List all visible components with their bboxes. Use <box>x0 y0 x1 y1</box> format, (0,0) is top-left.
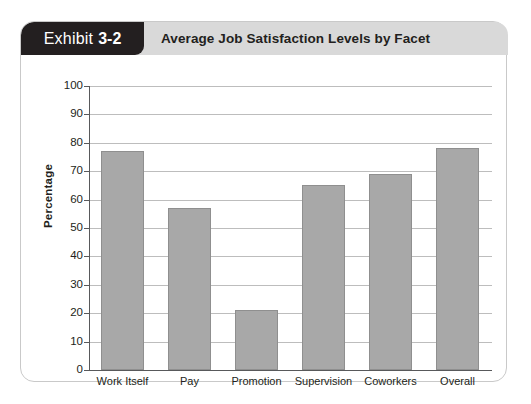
y-axis-tick-label: 30 <box>49 279 83 291</box>
x-axis-tick-label: Work Itself <box>89 376 156 387</box>
gridline <box>90 171 492 172</box>
x-axis-tick-label: Promotion <box>223 376 290 387</box>
y-axis-tick-label: 20 <box>49 307 83 319</box>
exhibit-header-band: Exhibit 3-2 Average Job Satisfaction Lev… <box>21 22 508 55</box>
y-axis-tick <box>84 256 89 257</box>
gridline <box>90 313 492 314</box>
y-axis-tick-label: 90 <box>49 108 83 120</box>
y-axis-tick <box>84 86 89 87</box>
x-axis-tick-label: Coworkers <box>357 376 424 387</box>
gridline <box>90 285 492 286</box>
y-axis-tick <box>84 200 89 201</box>
bar-promotion <box>235 310 278 370</box>
y-axis-tick <box>84 171 89 172</box>
y-axis-tick-label: 40 <box>49 250 83 262</box>
exhibit-tag: Exhibit 3-2 <box>21 22 144 55</box>
x-axis-tick-label: Overall <box>424 376 491 387</box>
gridline <box>90 342 492 343</box>
gridline <box>90 86 492 87</box>
exhibit-tag-word: Exhibit <box>44 30 93 48</box>
plot-area: Work ItselfPayPromotionSupervisionCowork… <box>89 86 491 370</box>
y-axis-tick <box>84 370 89 371</box>
gridline <box>90 200 492 201</box>
y-axis-tick <box>84 285 89 286</box>
bar-overall <box>436 148 479 370</box>
bar-coworkers <box>369 174 412 370</box>
x-axis-tick-label: Supervision <box>290 376 357 387</box>
y-axis-tick <box>84 342 89 343</box>
y-axis-tick-label: 80 <box>49 137 83 149</box>
y-axis-tick <box>84 228 89 229</box>
gridline <box>90 143 492 144</box>
y-axis-tick-label: 70 <box>49 165 83 177</box>
bar-pay <box>168 208 211 370</box>
x-axis-line <box>89 370 492 371</box>
y-axis-tick-labels: 0102030405060708090100 <box>41 86 83 371</box>
exhibit-card: Exhibit 3-2 Average Job Satisfaction Lev… <box>20 21 507 382</box>
y-axis-tick-label: 60 <box>49 194 83 206</box>
y-axis-tick-label: 10 <box>49 336 83 348</box>
gridline <box>90 256 492 257</box>
x-axis-tick-label: Pay <box>156 376 223 387</box>
bar-chart: Percentage 0102030405060708090100 Work I… <box>21 55 508 382</box>
exhibit-tag-number: 3-2 <box>98 30 121 48</box>
y-axis-tick-label: 0 <box>49 364 83 376</box>
bar-work-itself <box>101 151 144 370</box>
y-axis-tick <box>84 143 89 144</box>
gridline <box>90 228 492 229</box>
y-axis-tick <box>84 114 89 115</box>
gridline <box>90 114 492 115</box>
bar-supervision <box>302 185 345 370</box>
y-axis-tick <box>84 313 89 314</box>
exhibit-title: Average Job Satisfaction Levels by Facet <box>161 22 430 55</box>
y-axis-tick-label: 100 <box>49 80 83 92</box>
y-axis-tick-label: 50 <box>49 222 83 234</box>
